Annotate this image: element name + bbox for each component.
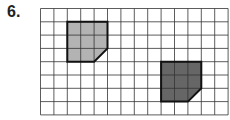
grid-diagram: [0, 0, 230, 120]
